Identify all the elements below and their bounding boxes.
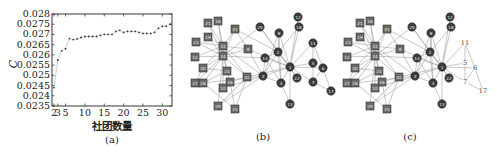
node-25: 25 xyxy=(231,105,239,113)
node-32: 32 xyxy=(243,73,251,81)
y-tick-label: 0.025 xyxy=(23,69,50,80)
node-label: 14 xyxy=(262,56,268,61)
node-18: 18 xyxy=(447,23,455,31)
node-label: 34 xyxy=(220,54,226,59)
node-label: 16 xyxy=(215,19,221,24)
node-label: 32 xyxy=(244,75,250,80)
y-tick-label: 0.027 xyxy=(23,28,50,39)
node-20: 20 xyxy=(256,23,264,31)
node-label: 28 xyxy=(200,81,206,86)
node-3: 3 xyxy=(259,72,267,80)
node-label: 29 xyxy=(367,104,373,109)
node-label: 22 xyxy=(446,76,452,81)
node-2: 2 xyxy=(426,48,434,56)
node-8: 8 xyxy=(427,29,435,37)
node-label: 1 xyxy=(289,65,292,70)
node-17: 17 xyxy=(479,87,487,95)
node-label: 22 xyxy=(294,76,300,81)
node-label: 28 xyxy=(352,81,358,86)
node-33: 33 xyxy=(219,42,227,50)
data-series xyxy=(53,23,171,88)
y-tick-label: 0.024 xyxy=(23,90,50,101)
node-label: 15 xyxy=(192,55,198,60)
data-point xyxy=(57,59,59,61)
y-axis-label: C xyxy=(7,59,20,68)
node-label: 5 xyxy=(312,61,315,66)
node-label: 12 xyxy=(447,15,453,20)
node-22: 22 xyxy=(445,74,453,82)
node-label: 20 xyxy=(409,25,415,30)
node-12: 12 xyxy=(294,13,302,21)
y-tick-label: 0.0255 xyxy=(17,59,50,70)
y-tick-label: 0.0245 xyxy=(17,80,50,91)
edge xyxy=(235,77,247,109)
x-axis-ticks: 2351015202530 xyxy=(51,14,168,118)
node-7: 7 xyxy=(309,78,317,86)
edge xyxy=(265,58,281,83)
data-point xyxy=(169,23,171,25)
data-point xyxy=(107,34,109,36)
y-tick-label: 0.0235 xyxy=(17,100,50,111)
nodes: 2116311923339153430243227282610292520812… xyxy=(343,13,487,113)
node-label: 11 xyxy=(461,39,469,47)
node-label: 4 xyxy=(432,81,435,86)
node-label: 23 xyxy=(193,40,199,45)
node-label: 33 xyxy=(220,44,226,49)
node-label: 24 xyxy=(376,69,382,74)
node-31: 31 xyxy=(383,25,391,33)
edge xyxy=(223,56,265,58)
node-9: 9 xyxy=(244,45,252,53)
node-label: 10 xyxy=(372,86,378,91)
node-4: 4 xyxy=(429,79,437,87)
node-label: 31 xyxy=(232,27,238,32)
node-21: 21 xyxy=(356,19,364,27)
node-label: 27 xyxy=(344,81,350,86)
node-label: 13 xyxy=(287,102,293,107)
node-label: 7 xyxy=(312,80,315,85)
data-point xyxy=(53,87,55,89)
node-label: 9 xyxy=(399,47,402,52)
node-label: 25 xyxy=(232,107,238,112)
node-21: 21 xyxy=(204,19,212,27)
node-label: 17 xyxy=(328,89,334,94)
node-23: 23 xyxy=(344,38,352,46)
node-15: 15 xyxy=(191,53,199,61)
node-label: 30 xyxy=(200,66,206,71)
node-label: 31 xyxy=(384,27,390,32)
node-30: 30 xyxy=(199,64,207,72)
node-11: 11 xyxy=(309,39,317,47)
x-tick-label: 30 xyxy=(156,107,168,118)
node-10: 10 xyxy=(219,84,227,92)
node-label: 17 xyxy=(479,87,487,95)
node-label: 6 xyxy=(473,64,477,72)
node-label: 16 xyxy=(367,19,373,24)
data-point xyxy=(146,33,148,35)
node-label: 9 xyxy=(247,47,250,52)
data-point xyxy=(158,27,160,29)
node-label: 7 xyxy=(463,78,467,86)
x-tick-label: 20 xyxy=(118,107,130,118)
node-19: 19 xyxy=(356,33,364,41)
y-tick-label: 0.0265 xyxy=(17,39,50,50)
node-24: 24 xyxy=(375,67,383,75)
node-label: 6 xyxy=(322,66,325,71)
data-point xyxy=(84,36,86,38)
node-19: 19 xyxy=(204,33,212,41)
node-label: 10 xyxy=(220,86,226,91)
y-tick-label: 0.028 xyxy=(23,8,50,19)
node-11: 11 xyxy=(461,39,469,47)
data-point xyxy=(99,35,101,37)
y-tick-label: 0.0275 xyxy=(17,18,50,29)
node-33: 33 xyxy=(371,42,379,50)
node-label: 32 xyxy=(396,75,402,80)
node-label: 25 xyxy=(384,107,390,112)
node-32: 32 xyxy=(395,73,403,81)
node-12: 12 xyxy=(446,13,454,21)
node-label: 8 xyxy=(430,31,433,36)
node-20: 20 xyxy=(408,23,416,31)
node-label: 26 xyxy=(227,80,233,85)
data-point xyxy=(130,30,132,32)
node-30: 30 xyxy=(351,64,359,72)
node-7: 7 xyxy=(462,78,468,86)
node-31: 31 xyxy=(231,25,239,33)
